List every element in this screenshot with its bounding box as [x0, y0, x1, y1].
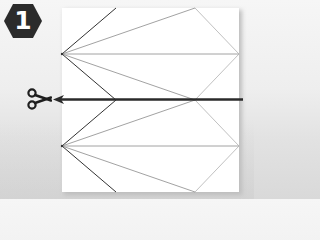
fold-line-dark	[62, 146, 116, 192]
fold-line-light	[62, 100, 195, 146]
fold-line-light	[195, 54, 239, 100]
step-badge: 1	[3, 3, 43, 39]
lower-kite-folds	[62, 100, 239, 192]
fold-line-light	[62, 8, 195, 54]
step-number: 1	[3, 3, 43, 39]
fold-line-dark	[62, 54, 116, 100]
fold-line-light	[195, 8, 239, 54]
fold-line-light	[62, 146, 195, 192]
vertex-dot	[61, 53, 63, 55]
fold-line-light	[195, 146, 239, 192]
cut-line	[53, 95, 243, 104]
fold-line-light	[62, 54, 195, 100]
fold-line-dark	[62, 8, 116, 54]
fold-line-light	[195, 100, 239, 146]
vertex-dot	[61, 145, 63, 147]
upper-kite-folds	[62, 8, 239, 100]
scissors-icon	[26, 87, 52, 111]
fold-line-dark	[62, 100, 116, 146]
